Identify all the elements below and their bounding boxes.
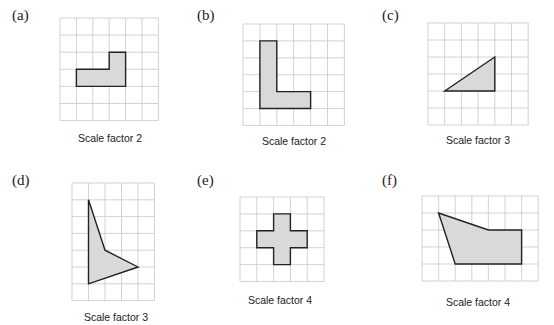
panel-f-label: (f) [382, 172, 397, 189]
panel-f-grid [422, 196, 538, 281]
panel-f-caption: Scale factor 4 [446, 296, 510, 308]
panel-c-grid [428, 23, 528, 125]
shape-polygon [76, 52, 125, 86]
panel-a-caption: Scale factor 2 [78, 132, 142, 144]
panel-e-caption: Scale factor 4 [248, 294, 312, 306]
panel-b-caption: Scale factor 2 [262, 135, 326, 147]
panel-b-label: (b) [197, 7, 215, 24]
panel-a-label: (a) [12, 7, 29, 24]
panel-b-grid [243, 24, 344, 125]
shape-polygon [439, 213, 522, 264]
panel-d-label: (d) [12, 172, 30, 189]
shape-polygon [257, 214, 307, 265]
panel-d-caption: Scale factor 3 [84, 311, 148, 323]
panel-d-grid [72, 183, 155, 301]
panel-c-label: (c) [382, 7, 399, 24]
panel-a-grid [60, 18, 158, 121]
panel-e-grid [240, 197, 324, 282]
figure-canvas [0, 0, 554, 325]
panel-e-label: (e) [197, 172, 214, 189]
panel-c-caption: Scale factor 3 [446, 134, 510, 146]
shape-polygon [89, 200, 139, 284]
